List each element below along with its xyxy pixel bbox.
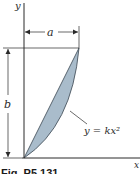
figure-diagram: a b y = kx² y x Fig. P5.131 — [0, 0, 140, 174]
dimension-a-label: a — [47, 26, 54, 39]
curve-equation-label: y = kx² — [83, 125, 120, 136]
curve-leader-line — [70, 111, 87, 124]
dimension-b-label: b — [4, 98, 11, 111]
y-axis-label: y — [14, 0, 21, 11]
shaded-region — [24, 48, 79, 158]
x-axis-label: x — [134, 160, 139, 170]
figure-caption: Fig. P5.131 — [1, 167, 58, 174]
